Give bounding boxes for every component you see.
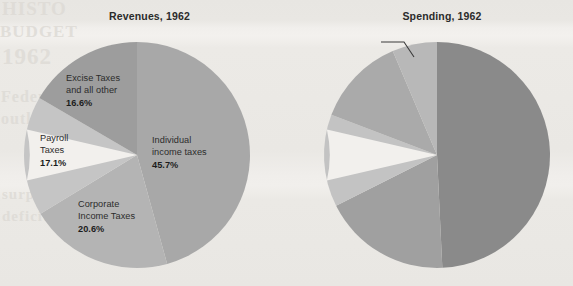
- slice-label-corporate-income-taxes: Corporate Income Taxes 20.6%: [78, 198, 135, 235]
- label-line-2: Taxes: [40, 144, 68, 156]
- chart-revenues: Revenues, 1962 Individual income taxes 4…: [0, 0, 287, 286]
- label-line-1: Excise Taxes: [66, 72, 120, 84]
- label-percent: 20.6%: [78, 224, 104, 234]
- slice-label-excise-taxes: Excise Taxes and all other 16.6%: [66, 72, 120, 109]
- slice-label-payroll-taxes: Payroll Taxes 17.1%: [40, 132, 68, 169]
- slice-label-individual-income-taxes: Individual income taxes 45.7%: [152, 134, 207, 171]
- label-line-1: Individual: [152, 134, 207, 146]
- label-line-1: Payroll: [40, 132, 68, 144]
- spending-pie-svg: [287, 0, 573, 286]
- chart-spending: Spending, 1962 Defense Discretionary 49.…: [287, 0, 573, 286]
- label-percent: 45.7%: [152, 160, 178, 170]
- label-percent: 17.1%: [40, 158, 66, 168]
- label-line-2: and all other: [66, 84, 120, 96]
- label-percent: 16.6%: [66, 98, 92, 108]
- pie-slice-defense-discretionary[interactable]: [437, 42, 550, 268]
- label-line-2: Income Taxes: [78, 210, 135, 222]
- label-line-1: Corporate: [78, 198, 135, 210]
- label-line-2: income taxes: [152, 146, 207, 158]
- chart-spending-pie: [287, 0, 573, 286]
